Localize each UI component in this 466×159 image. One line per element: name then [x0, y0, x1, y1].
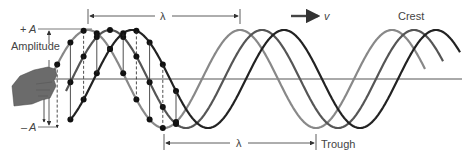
transverse-wave-diagram: λ λ v Crest Trough + A Amplitude – A	[0, 0, 466, 159]
minus-a-label: A	[28, 121, 36, 133]
plus-a-sign: +	[20, 23, 26, 35]
amplitude-label: Amplitude	[11, 40, 60, 52]
trough-label: Trough	[321, 138, 355, 150]
minus-a-sign: –	[21, 121, 28, 133]
velocity-label: v	[324, 10, 331, 22]
particle-dot	[107, 27, 113, 33]
crest-label: Crest	[398, 10, 424, 22]
hand-icon	[12, 67, 57, 106]
lambda-bottom-label: λ	[236, 137, 242, 149]
lambda-top-label: λ	[160, 10, 166, 22]
plus-a-label: A	[28, 23, 36, 35]
